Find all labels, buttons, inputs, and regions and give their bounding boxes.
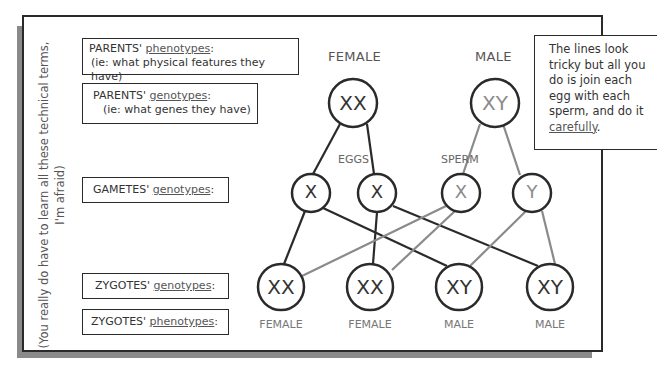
male-parent-label: MALE xyxy=(475,49,512,64)
female-parent-genotype: XX xyxy=(329,91,377,115)
zygote-genotype-1: XX xyxy=(257,275,305,299)
sperm-label: SPERM xyxy=(441,153,479,166)
tip-note: The lines look tricky but all you do is … xyxy=(534,35,657,150)
zygote-genotype-3: XY xyxy=(435,275,483,299)
male-parent-lines xyxy=(463,124,520,175)
tip-note-end: . xyxy=(597,120,601,134)
tip-note-emphasis: carefully xyxy=(549,120,597,134)
gamete-allele-1: X xyxy=(298,181,324,202)
gamete-allele-3: X xyxy=(448,181,474,202)
zygote-phenotype-4: MALE xyxy=(515,318,585,331)
male-parent-genotype: XY xyxy=(471,91,519,115)
female-parent-lines xyxy=(313,124,374,174)
zygote-genotype-2: XX xyxy=(346,275,394,299)
zygote-genotype-4: XY xyxy=(526,275,574,299)
gamete-allele-2: X xyxy=(364,181,390,202)
tip-note-text: The lines look tricky but all you do is … xyxy=(549,42,645,118)
zygote-phenotype-2: FEMALE xyxy=(335,318,405,331)
eggs-label: EGGS xyxy=(338,153,369,166)
zygote-phenotype-1: FEMALE xyxy=(246,318,316,331)
zygote-phenotype-3: MALE xyxy=(424,318,494,331)
female-parent-label: FEMALE xyxy=(328,49,381,64)
gamete-allele-4: Y xyxy=(519,181,545,202)
